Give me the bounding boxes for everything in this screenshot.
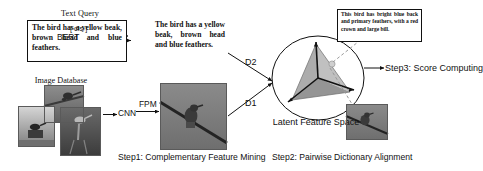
step3-label: Step3: Score Computing — [385, 63, 483, 73]
retrieved-text-content: This bird has bright blue back and prima… — [341, 11, 418, 33]
cnn-label: CNN — [118, 108, 136, 118]
cls-token-label: [ cls ] — [70, 24, 87, 33]
latent-space-tetrahedron — [288, 42, 354, 102]
step2-label: Step2: Pairwise Dictionary Alignment — [272, 152, 412, 162]
db-img-left[interactable] — [18, 106, 55, 147]
image-database-title: Image Database — [18, 76, 104, 85]
dashed-link-to-retrieved-image — [330, 68, 352, 104]
db-img-front[interactable] — [60, 107, 101, 156]
step1-label: Step1: Complementary Feature Mining — [118, 152, 266, 162]
bert-encoder-label: BERT — [57, 32, 80, 42]
text-query-title: Text Query — [29, 9, 131, 18]
dashed-link-to-retrieved-text — [333, 42, 358, 62]
d1-label: D1 — [245, 98, 257, 108]
feature-image[interactable] — [160, 83, 227, 150]
d2-label: D2 — [245, 57, 257, 67]
retrieved-image[interactable] — [346, 104, 388, 140]
encoded-text-content: The bird has a yellow beak, brown head a… — [155, 20, 225, 50]
retrieved-text-box[interactable]: This bird has bright blue back and prima… — [337, 9, 422, 42]
fpm-label: FPM — [139, 99, 157, 109]
